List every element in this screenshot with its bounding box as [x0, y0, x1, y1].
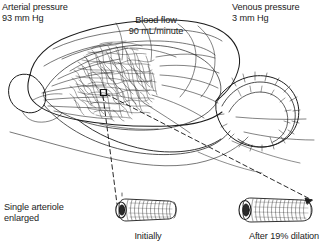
initially-label: Initially: [118, 231, 178, 242]
venous-pressure-label: Venous pressure 3 mm Hg: [232, 2, 299, 23]
single-arteriole-label: Single arteriole enlarged: [4, 202, 64, 223]
arteriole-dilated: [239, 198, 312, 222]
capillary-network: [70, 41, 157, 121]
brainstem-and-nerves: [10, 105, 314, 173]
cerebral-vessels: [42, 45, 221, 133]
arteriole-initial: [116, 193, 176, 221]
blood-flow-label: Blood flow 90 mL/minute: [110, 15, 202, 36]
leader-to-dilated: [106, 94, 312, 200]
arterial-pressure-label: Arterial pressure 93 mm Hg: [2, 2, 68, 23]
after-dilation-label: After 19% dilation: [237, 231, 331, 242]
leader-lines: [103, 94, 312, 204]
cerebellum: [216, 72, 300, 151]
